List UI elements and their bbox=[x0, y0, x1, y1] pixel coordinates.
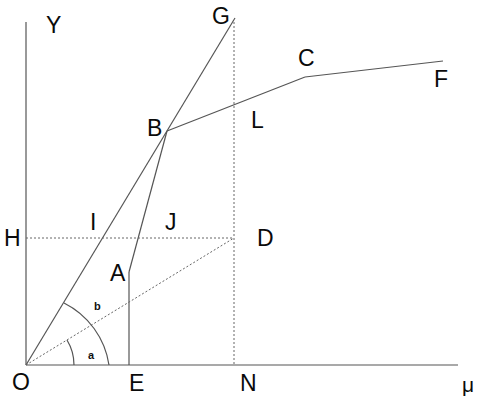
line-AB bbox=[129, 131, 167, 272]
label-mu: μ bbox=[462, 373, 474, 396]
label-E: E bbox=[129, 370, 144, 396]
label-D: D bbox=[257, 225, 274, 251]
label-J: J bbox=[165, 209, 177, 235]
label-angle-a: a bbox=[88, 349, 95, 361]
label-B: B bbox=[147, 115, 162, 141]
label-O: O bbox=[12, 369, 30, 395]
line-BC bbox=[167, 77, 305, 131]
label-N: N bbox=[240, 370, 257, 396]
label-A: A bbox=[110, 260, 126, 286]
line-OG bbox=[26, 18, 235, 365]
label-G: G bbox=[212, 3, 230, 29]
angle-arc-b bbox=[64, 303, 109, 365]
diagram-canvas: Y G C F B L I J H D A b a O E N μ bbox=[0, 0, 480, 400]
label-F: F bbox=[434, 66, 448, 92]
label-L: L bbox=[251, 107, 264, 133]
label-H: H bbox=[4, 225, 21, 251]
label-angle-b: b bbox=[94, 300, 101, 312]
angle-arc-a bbox=[67, 340, 74, 365]
label-Y: Y bbox=[46, 12, 61, 38]
label-I: I bbox=[90, 209, 96, 235]
line-OD-dashed bbox=[26, 238, 234, 365]
line-CF bbox=[305, 61, 443, 77]
label-C: C bbox=[298, 45, 315, 71]
